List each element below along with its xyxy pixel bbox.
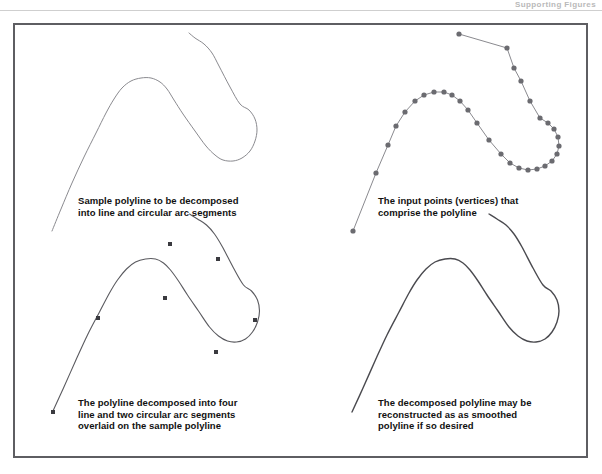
panel-caption-top-left: Sample polyline to be decomposed into li… (78, 195, 288, 218)
panel-caption-top-right: The input points (vertices) that compris… (378, 195, 593, 218)
figure-frame (13, 23, 588, 458)
panel-caption-bottom-left: The polyline decomposed into four line a… (78, 397, 293, 432)
panel-caption-bottom-right: The decomposed polyline may be reconstru… (378, 397, 593, 432)
header-divider (0, 10, 602, 11)
page-header: Supporting Figures (515, 0, 596, 9)
